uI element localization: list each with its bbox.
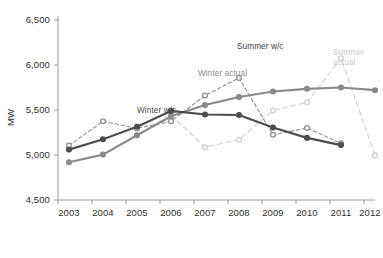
series-label-summer-actual-line1: Summer — [333, 48, 365, 57]
data-point — [339, 143, 344, 148]
data-point — [305, 86, 310, 91]
line-chart: MW 4,500 5,000 5,500 6,000 6,500 2003 20… — [0, 0, 383, 258]
data-point — [237, 113, 242, 118]
data-point — [101, 119, 106, 124]
data-point — [169, 119, 174, 124]
x-tick-label-2012: 2012 — [348, 207, 383, 218]
data-point — [237, 137, 242, 142]
y-tick-label-6000: 6,000 — [8, 59, 50, 70]
y-tick-label-4500: 4,500 — [8, 194, 50, 205]
data-point — [305, 136, 310, 141]
series-label-summer-actual-line2: actual — [333, 58, 365, 68]
series-label-winter-actual: Winter actual — [198, 69, 247, 78]
series-label-winter-wc: Winter w/c — [137, 106, 176, 115]
data-point — [237, 95, 242, 100]
data-point — [203, 145, 208, 150]
data-point — [135, 124, 140, 129]
data-point — [305, 126, 310, 131]
data-point — [67, 147, 72, 152]
data-point — [101, 137, 106, 142]
data-point — [271, 108, 276, 113]
data-point — [271, 89, 276, 94]
data-point — [203, 103, 208, 108]
chart-plot-area — [0, 0, 383, 258]
data-point — [203, 93, 208, 98]
data-point — [339, 85, 344, 90]
y-tick-label-5500: 5,500 — [8, 104, 50, 115]
data-point — [373, 88, 378, 93]
data-point — [373, 153, 378, 158]
series-label-summer-wc: Summer w/c — [237, 42, 284, 51]
data-point — [67, 160, 72, 165]
series-label-summer-actual: Summer actual — [333, 48, 365, 68]
data-point — [305, 100, 310, 105]
series-summer-w-c — [67, 85, 378, 165]
data-point — [135, 133, 140, 138]
data-point — [271, 125, 276, 130]
data-point — [271, 132, 276, 137]
y-tick-label-6500: 6,500 — [8, 14, 50, 25]
y-tick-label-5000: 5,000 — [8, 149, 50, 160]
data-point — [101, 152, 106, 157]
data-point — [203, 112, 208, 117]
